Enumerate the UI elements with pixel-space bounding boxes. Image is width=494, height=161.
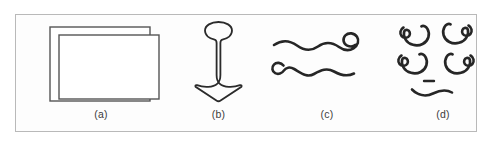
nested-offset-rectangles-drawing	[36, 15, 166, 107]
subfigure-a-label: (a)	[36, 107, 166, 121]
spiral-curl-motifs-drawing	[388, 15, 494, 107]
figure-frame: (a) (b) (c)	[15, 14, 477, 132]
subfigure-a: (a)	[36, 15, 166, 133]
subfigure-d-label: (d)	[388, 107, 494, 121]
subfigure-b-label: (b)	[171, 107, 266, 121]
wavy-lines-with-spiral-curls-drawing	[268, 15, 386, 107]
subfigure-c: (c)	[268, 15, 386, 133]
subfigure-b: (b)	[171, 15, 266, 133]
anchor-arrow-drawing	[171, 15, 266, 107]
subfigure-d: (d)	[388, 15, 494, 133]
subfigure-c-label: (c)	[268, 107, 386, 121]
figure-panel: (a) (b) (c)	[0, 0, 494, 161]
